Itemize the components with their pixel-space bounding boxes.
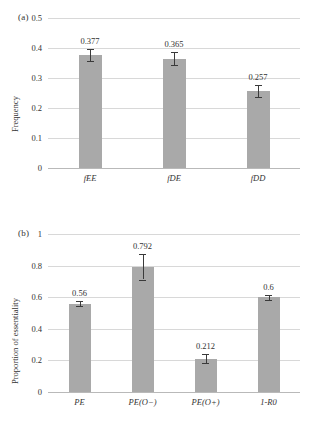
bar-value-label: 0.56 — [72, 288, 87, 298]
bar-value-label: 0.257 — [248, 72, 267, 82]
error-bar-cap-bottom — [255, 97, 262, 98]
x-axis-tick-label: fDD — [251, 173, 266, 183]
y-axis-tick-label: 0.1 — [31, 133, 42, 143]
y-axis-tick-label: 0.8 — [31, 261, 42, 271]
error-bar — [90, 49, 91, 60]
error-bar-cap-top — [255, 85, 262, 86]
x-axis-tick-label: 1-R0 — [260, 397, 277, 407]
error-bar-cap-bottom — [265, 300, 272, 301]
bar — [79, 55, 102, 168]
y-axis-tick-label: 0.6 — [31, 292, 42, 302]
error-bar-cap-top — [265, 295, 272, 296]
error-bar — [174, 52, 175, 65]
y-axis-tick-label: 0.4 — [31, 43, 42, 53]
x-axis-tick-label: PE(O+) — [192, 397, 220, 407]
bar — [247, 91, 270, 168]
plot-area-b: 00.20.40.60.810.56PE0.792PE(O−)0.212PE(O… — [48, 234, 300, 392]
bar-value-label: 0.212 — [196, 341, 215, 351]
bar-value-label: 0.792 — [133, 241, 152, 251]
bar — [163, 59, 186, 169]
x-axis-tick-label: PE(O−) — [129, 397, 157, 407]
panel-label-b: (b) — [18, 228, 29, 238]
axis-baseline — [48, 168, 300, 169]
x-axis-tick-label: fEE — [84, 173, 97, 183]
y-axis-tick-label: 0.2 — [31, 355, 42, 365]
error-bar-cap-bottom — [87, 61, 94, 62]
bar-value-label: 0.365 — [164, 39, 183, 49]
y-axis-tick-label: 0.2 — [31, 103, 42, 113]
chart-panel-a: (a) Frequency 00.10.20.30.40.50.377fEE0.… — [0, 0, 309, 210]
bar — [258, 297, 280, 392]
error-bar-cap-top — [202, 354, 209, 355]
error-bar — [143, 254, 144, 279]
error-bar-cap-top — [76, 301, 83, 302]
y-axis-tick-label: 0.3 — [31, 73, 42, 83]
plot-area-a: 00.10.20.30.40.50.377fEE0.365fDE0.257fDD — [48, 18, 300, 168]
y-axis-tick-label: 0 — [38, 163, 42, 173]
gridline — [48, 234, 300, 235]
gridline — [48, 266, 300, 267]
error-bar-cap-bottom — [76, 306, 83, 307]
y-axis-title-a: Frequency — [10, 96, 20, 132]
figure-root: (a) Frequency 00.10.20.30.40.50.377fEE0.… — [0, 0, 309, 433]
error-bar-cap-bottom — [171, 65, 178, 66]
error-bar — [258, 85, 259, 97]
error-bar-cap-bottom — [139, 280, 146, 281]
axis-baseline — [48, 392, 300, 393]
bar-value-label: 0.6 — [263, 282, 274, 292]
x-axis-tick-label: fDE — [167, 173, 181, 183]
chart-panel-b: (b) Proportion of essentiality 00.20.40.… — [0, 212, 309, 433]
error-bar-cap-top — [139, 254, 146, 255]
gridline — [48, 18, 300, 19]
error-bar-cap-top — [171, 52, 178, 53]
error-bar-cap-top — [87, 49, 94, 50]
y-axis-tick-label: 0.4 — [31, 324, 42, 334]
y-axis-title-b: Proportion of essentiality — [10, 298, 20, 384]
error-bar — [206, 354, 207, 363]
panel-label-a: (a) — [18, 12, 29, 22]
y-axis-tick-label: 0.5 — [31, 13, 42, 23]
bar-value-label: 0.377 — [80, 36, 99, 46]
y-axis-tick-label: 0 — [38, 387, 42, 397]
x-axis-tick-label: PE — [74, 397, 84, 407]
y-axis-tick-label: 1 — [38, 229, 42, 239]
error-bar-cap-bottom — [202, 363, 209, 364]
bar — [69, 304, 91, 392]
bar — [132, 267, 154, 392]
